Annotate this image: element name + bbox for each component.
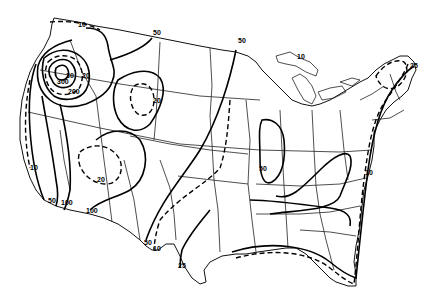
- label-texas-10: 10: [153, 245, 161, 252]
- label-east-coast-10: 10: [365, 169, 373, 176]
- label-new-england-25: 25: [410, 62, 418, 69]
- label-west-coast-50: 50: [48, 197, 56, 204]
- label-west-coast-10: 10: [30, 164, 38, 171]
- label-great-lakes-10: 10: [297, 53, 305, 60]
- contour-labels: 10 30 20 300 200 50 50 20 10 20 50 100 1…: [30, 21, 418, 269]
- label-texas-25: 25: [178, 262, 186, 269]
- us-outline: [20, 18, 416, 286]
- label-plains-50: 50: [238, 37, 246, 44]
- label-nw-200: 200: [68, 88, 80, 95]
- label-nw-20: 20: [82, 72, 90, 79]
- label-midwest-50: 50: [259, 165, 267, 172]
- label-texas-50: 50: [144, 239, 152, 246]
- label-great-basin-20: 20: [153, 97, 161, 104]
- label-sw-100: 100: [86, 207, 98, 214]
- label-nw-300: 300: [57, 78, 69, 85]
- label-north-50: 50: [153, 29, 161, 36]
- us-contour-map: 10 30 20 300 200 50 50 20 10 20 50 100 1…: [0, 0, 435, 301]
- label-sw-20: 20: [97, 176, 105, 183]
- label-west-coast-100: 100: [61, 199, 73, 206]
- label-nw-10: 10: [78, 21, 86, 28]
